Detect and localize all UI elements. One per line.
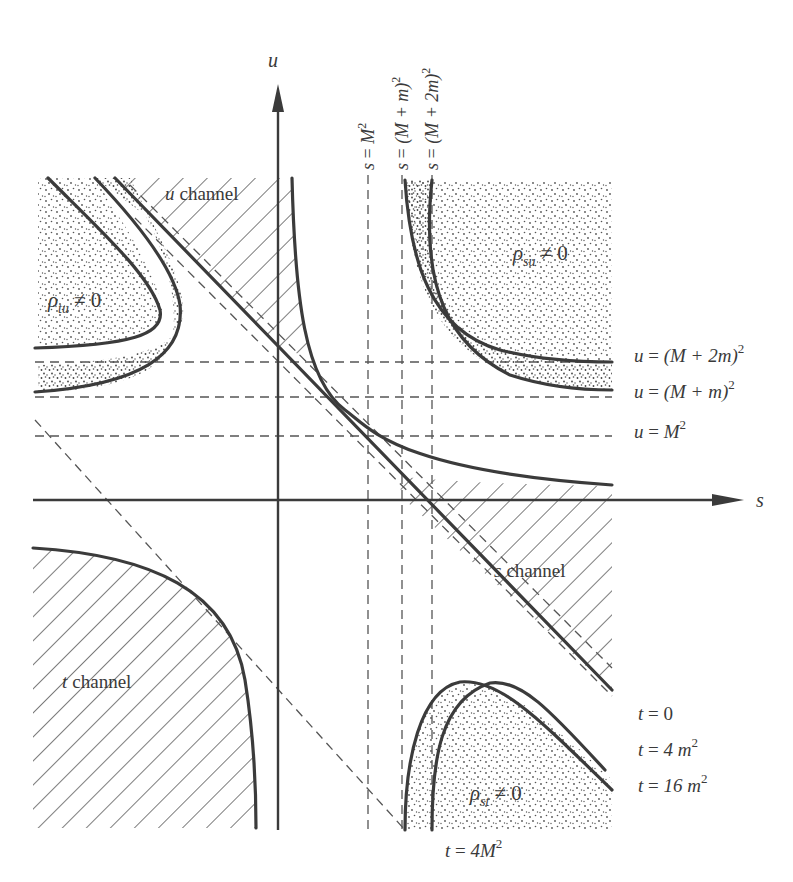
t-channel-label: tchannel <box>62 671 131 692</box>
t-eq-4m2-label: t = 4 m2 <box>638 735 698 760</box>
rho-su-label: ρsu≠ 0 <box>512 241 568 269</box>
t-eq-16m2-label: t = 16 m2 <box>638 771 707 796</box>
s-axis-label: s <box>756 489 764 511</box>
u-eq-Mplusm2-label: u = (M + m)2 <box>634 377 735 403</box>
u-axis-label: u <box>268 49 278 71</box>
u-eq-M2-label: u = M2 <box>634 417 686 442</box>
s-eq-M2-label: s = M2 <box>355 123 378 170</box>
rho-su-region <box>405 180 612 362</box>
mandelstam-diagram: u s uchannel schannel tchannel ρtu≠ 0 ρs… <box>0 0 793 882</box>
u-eq-Mplus2m2-label: u = (M + 2m)2 <box>634 341 744 367</box>
t-eq-0-label: t = 0 <box>638 703 673 724</box>
s-eq-Mplusm2-label: s = (M + m)2 <box>389 77 413 170</box>
rho-tu-label: ρtu≠ 0 <box>47 288 101 316</box>
s-axis <box>33 494 744 506</box>
rho-st-label: ρst≠ 0 <box>469 781 522 809</box>
t-eq-4M2-label: t = 4M2 <box>445 836 502 861</box>
s-eq-Mplus2m2-label: s = (M + 2m)2 <box>419 68 443 170</box>
